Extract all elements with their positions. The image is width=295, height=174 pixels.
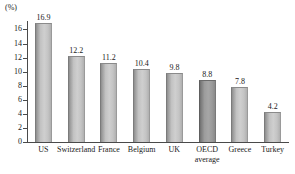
category-label: Greece [229, 145, 252, 155]
category-label-line: Turkey [261, 145, 284, 154]
bar-value-label: 16.9 [36, 13, 50, 22]
category-label-line: Greece [229, 145, 252, 154]
bar-value-label: 12.2 [69, 46, 83, 55]
bar: 12.2 [68, 56, 85, 142]
y-tick-label: 2 [18, 122, 22, 133]
y-tick-label: 16 [14, 23, 22, 34]
y-tick-label: 0 [18, 136, 22, 147]
y-tick-label: 10 [14, 66, 22, 77]
category-label-line: UK [169, 145, 181, 154]
y-tick-label: 8 [18, 80, 22, 91]
bar: 10.4 [133, 69, 150, 142]
y-tick-label: 6 [18, 94, 22, 105]
bar-value-label: 9.8 [169, 63, 179, 72]
x-axis-category-labels: USSwitzerlandFranceBelgiumUKOECDaverageG… [27, 145, 289, 173]
category-label: Belgium [128, 145, 156, 155]
category-label-line: Belgium [128, 145, 156, 154]
y-tick-label: 14 [14, 38, 22, 49]
category-label: France [98, 145, 120, 155]
bar-value-label: 4.2 [268, 102, 278, 111]
category-label: OECDaverage [195, 145, 220, 164]
category-label: US [38, 145, 48, 155]
bar: 4.2 [264, 112, 281, 142]
bar-chart: (%) 0246810121416 16.912.211.210.49.88.8… [0, 0, 295, 174]
category-label: Switzerland [57, 145, 95, 155]
y-tick-label: 4 [18, 108, 22, 119]
bar: 9.8 [166, 73, 183, 142]
bar: 7.8 [231, 87, 248, 142]
bar: 11.2 [100, 63, 117, 142]
category-label-line: US [38, 145, 48, 154]
plot-area: 0246810121416 16.912.211.210.49.88.87.84… [27, 21, 289, 143]
y-tick-label: 12 [14, 52, 22, 63]
bar-series: 16.912.211.210.49.88.87.84.2 [27, 21, 289, 143]
bar: 8.8 [199, 80, 216, 142]
category-label-line: Switzerland [57, 145, 95, 154]
bar: 16.9 [35, 23, 52, 142]
bar-value-label: 10.4 [135, 59, 149, 68]
bar-value-label: 8.8 [202, 70, 212, 79]
category-label-line: average [195, 155, 220, 165]
bar-value-label: 11.2 [102, 53, 116, 62]
bar-value-label: 7.8 [235, 77, 245, 86]
category-label: Turkey [261, 145, 284, 155]
category-label: UK [169, 145, 181, 155]
category-label-line: OECD [196, 145, 218, 154]
y-axis-unit-label: (%) [5, 3, 17, 13]
category-label-line: France [98, 145, 120, 154]
